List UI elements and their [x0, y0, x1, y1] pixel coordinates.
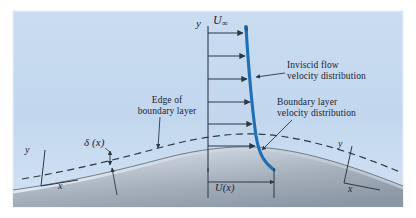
left-y-axis-label: y [25, 144, 30, 155]
u-infinity-subscript: ∞ [222, 18, 228, 28]
delta-x-label: δ (x) [84, 136, 105, 148]
inviscid-flow-line-1: Inviscid flow [287, 60, 366, 71]
left-x-axis-label: x [58, 180, 63, 191]
u-infinity-symbol: U [213, 13, 222, 27]
u-of-x-label: U(x) [215, 182, 235, 194]
inviscid-flow-label: Inviscid flow velocity distribution [287, 60, 366, 81]
inviscid-flow-line-2: velocity distribution [287, 71, 366, 82]
boundary-layer-velocity-label: Boundary layer velocity distribution [277, 97, 356, 118]
edge-of-boundary-layer-line-1: Edge of [124, 95, 210, 106]
boundary-layer-figure: y U∞ Inviscid flow velocity distribution… [0, 0, 416, 218]
edge-of-boundary-layer-line-2: boundary layer [124, 106, 210, 117]
edge-of-boundary-layer-label: Edge of boundary layer [124, 95, 210, 116]
boundary-layer-velocity-line-1: Boundary layer [277, 97, 356, 108]
right-y-axis-label: y [338, 138, 343, 149]
boundary-layer-velocity-line-2: velocity distribution [277, 108, 356, 119]
y-axis-top-label: y [196, 17, 201, 29]
u-infinity-label: U∞ [213, 14, 227, 28]
right-x-axis-label: x [348, 183, 353, 194]
